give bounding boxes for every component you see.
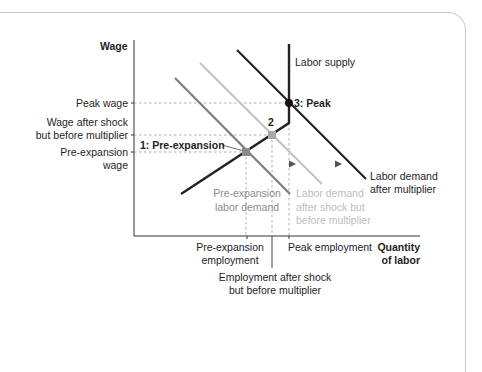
demand-shock-label-3: before multiplier — [296, 214, 371, 227]
peak-wage-label: Peak wage — [40, 97, 128, 110]
demand-shock-label-1: Labor demand — [296, 187, 364, 200]
x-axis-label-2: of labor — [360, 254, 420, 267]
demand-multiplier-label-2: after multiplier — [370, 183, 436, 196]
point-3 — [285, 99, 293, 107]
emp-pre-label-1: Pre-expansion — [190, 241, 270, 254]
pre-wage-label-1: Pre-expansion — [0, 146, 128, 159]
emp-pre-label-2: employment — [190, 254, 270, 267]
point-2 — [268, 131, 276, 139]
y-axis-label: Wage — [100, 40, 128, 53]
point-2-label: 2 — [268, 116, 274, 129]
labor-supply-label: Labor supply — [295, 56, 355, 69]
point-1 — [242, 148, 250, 156]
x-axis-label-1: Quantity — [360, 241, 420, 254]
demand-shock-label-2: after shock but — [296, 201, 365, 214]
point-3-label: 3: Peak — [294, 97, 331, 110]
emp-shock-label-2: but before multiplier — [210, 284, 340, 297]
wage-after-shock-label-2: but before multiplier — [0, 129, 128, 142]
demand-pre-label-2: labor demand — [205, 201, 289, 214]
demand-pre-label-1: Pre-expansion — [205, 187, 289, 200]
emp-shock-label-1: Employment after shock — [210, 271, 340, 284]
pre-wage-label-2: wage — [0, 159, 128, 172]
demand-multiplier-label-1: Labor demand — [370, 170, 438, 183]
wage-after-shock-label-1: Wage after shock — [0, 116, 128, 129]
point-1-label: 1: Pre-expansion — [140, 139, 225, 152]
